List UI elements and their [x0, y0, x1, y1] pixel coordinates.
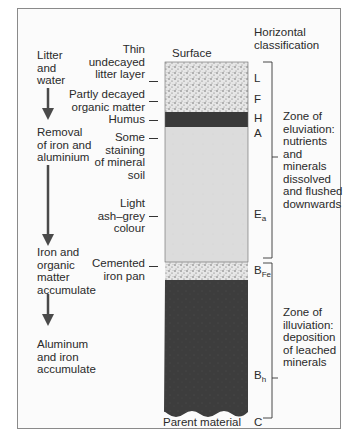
- process-litter-water: Litter and water: [37, 49, 65, 87]
- leader-line: [149, 120, 158, 121]
- process-removal-iron-aluminium: Removal of iron and aluminium: [37, 126, 91, 164]
- label-iron-pan: Cemented iron pan: [92, 257, 145, 282]
- process-iron-organic-accumulate: Iron and organic matter accumulate: [37, 246, 96, 296]
- leader-line: [149, 81, 158, 82]
- label-staining: Some staining of mineral soil: [95, 131, 146, 181]
- zone-eluviation: Zone of eluviation: nutrients and minera…: [283, 110, 342, 210]
- label-partly-decayed: Partly decayed organic matter: [69, 88, 145, 113]
- layer-illuvial: [164, 280, 248, 417]
- horizon-Ea: Ea: [254, 208, 266, 226]
- horizon-H: H: [254, 112, 262, 125]
- horizon-BFe: BFe: [254, 264, 271, 282]
- leader-line: [149, 101, 158, 102]
- eluviation-bracket: [263, 62, 278, 258]
- layer-ash-grey: [165, 127, 248, 262]
- horizon-A: A: [254, 127, 262, 140]
- arrow-down-icon: [42, 88, 54, 120]
- leader-line: [149, 216, 158, 217]
- horizontal-classification-heading: Horizontal classification: [254, 26, 319, 51]
- horizon-F: F: [254, 93, 261, 106]
- label-parent-material: Parent material: [163, 416, 241, 429]
- horizon-C: C: [254, 416, 262, 429]
- horizon-L: L: [254, 72, 260, 85]
- illuviation-bracket: [263, 263, 278, 418]
- leader-line: [149, 266, 158, 267]
- label-humus: Humus: [109, 113, 145, 126]
- leader-line: [149, 138, 158, 139]
- surface-label: Surface: [172, 47, 212, 60]
- arrow-down-icon: [42, 294, 54, 326]
- horizon-Bh: Bh: [254, 369, 266, 387]
- layer-humus: [165, 112, 248, 127]
- zone-illuviation: Zone of illuviation: deposition of leach…: [283, 306, 336, 369]
- label-litter-layer: Thin undecayed litter layer: [89, 43, 145, 81]
- process-aluminum-iron-accumulate: Aluminum and iron accumulate: [37, 338, 96, 376]
- label-ash-grey: Light ash–grey colour: [98, 197, 145, 235]
- layer-litter: [165, 62, 248, 112]
- arrow-down-icon: [42, 165, 54, 246]
- layer-iron-pan: [165, 262, 248, 280]
